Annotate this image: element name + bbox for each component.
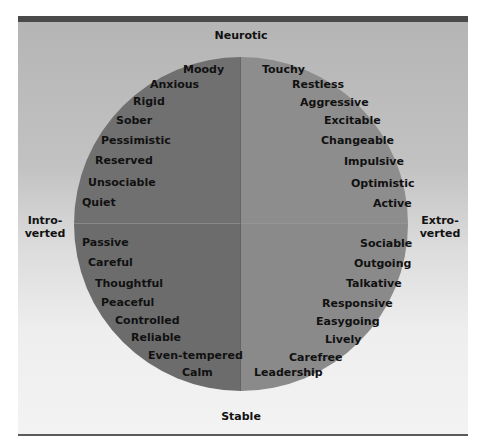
- trait-sober: Sober: [116, 114, 152, 127]
- axis-label-neurotic: Neurotic: [210, 29, 272, 42]
- trait-unsociable: Unsociable: [88, 176, 156, 189]
- trait-easygoing: Easygoing: [316, 315, 380, 328]
- trait-carefree: Carefree: [289, 351, 343, 364]
- trait-peaceful: Peaceful: [101, 296, 154, 309]
- trait-restless: Restless: [292, 78, 344, 91]
- vertical-divider: [240, 57, 241, 391]
- axis-label-introverted-line2: verted: [22, 227, 68, 240]
- trait-quiet: Quiet: [82, 196, 116, 209]
- trait-leadership: Leadership: [254, 366, 323, 379]
- trait-sociable: Sociable: [360, 237, 412, 250]
- axis-label-stable: Stable: [210, 410, 272, 423]
- trait-careful: Careful: [88, 256, 133, 269]
- trait-lively: Lively: [325, 333, 361, 346]
- trait-optimistic: Optimistic: [351, 177, 415, 190]
- trait-controlled: Controlled: [115, 314, 180, 327]
- trait-rigid: Rigid: [133, 95, 165, 108]
- trait-anxious: Anxious: [150, 78, 199, 91]
- axis-label-extroverted-line2: verted: [417, 227, 463, 240]
- trait-excitable: Excitable: [324, 114, 381, 127]
- trait-talkative: Talkative: [346, 277, 402, 290]
- trait-moody: Moody: [183, 63, 224, 76]
- trait-aggressive: Aggressive: [300, 96, 369, 109]
- trait-outgoing: Outgoing: [354, 257, 411, 270]
- axis-label-introverted: Intro- verted: [22, 214, 68, 240]
- trait-thoughtful: Thoughtful: [95, 277, 163, 290]
- trait-responsive: Responsive: [322, 297, 393, 310]
- trait-reliable: Reliable: [131, 331, 181, 344]
- trait-changeable: Changeable: [321, 134, 394, 147]
- trait-touchy: Touchy: [262, 63, 305, 76]
- trait-active: Active: [373, 197, 412, 210]
- trait-pessimistic: Pessimistic: [101, 134, 171, 147]
- axis-label-extroverted: Extro- verted: [417, 214, 463, 240]
- trait-calm: Calm: [182, 366, 213, 379]
- trait-impulsive: Impulsive: [344, 155, 404, 168]
- trait-reserved: Reserved: [95, 154, 153, 167]
- axis-label-extroverted-line1: Extro-: [417, 214, 463, 227]
- trait-even-tempered: Even-tempered: [148, 349, 243, 362]
- axis-label-introverted-line1: Intro-: [22, 214, 68, 227]
- horizontal-divider: [74, 223, 408, 224]
- trait-passive: Passive: [82, 236, 129, 249]
- quadrant-stable-introverted: [74, 224, 241, 391]
